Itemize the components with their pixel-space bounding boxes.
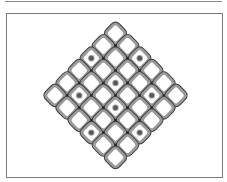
lattice-joint bbox=[102, 132, 104, 134]
lattice-joint bbox=[90, 94, 92, 96]
marked-dot-icon bbox=[112, 105, 118, 111]
lattice-tile bbox=[106, 148, 125, 167]
marked-dot-icon bbox=[88, 55, 94, 61]
marked-dot-icon bbox=[149, 92, 155, 98]
lattice-joint bbox=[78, 107, 80, 109]
marked-dot-icon bbox=[76, 92, 82, 98]
lattice-joint bbox=[114, 119, 116, 121]
lattice-joint bbox=[127, 82, 129, 84]
lattice-joint bbox=[114, 144, 116, 146]
lattice-joint bbox=[127, 57, 129, 59]
lattice-joint bbox=[78, 82, 80, 84]
lattice-joint bbox=[163, 94, 165, 96]
lattice-joint bbox=[139, 119, 141, 121]
lattice-joint bbox=[151, 107, 153, 109]
lattice-joint bbox=[127, 132, 129, 134]
lattice-joint bbox=[139, 94, 141, 96]
lattice-joint bbox=[90, 70, 92, 72]
lattice-joint bbox=[102, 57, 104, 59]
lattice-joint bbox=[66, 94, 68, 96]
lattice-joint bbox=[139, 70, 141, 72]
lattice-joint bbox=[102, 82, 104, 84]
diamond-lattice bbox=[0, 0, 227, 182]
lattice-joint bbox=[102, 107, 104, 109]
lattice-joint bbox=[114, 94, 116, 96]
lattice-joint bbox=[127, 107, 129, 109]
lattice-joint bbox=[90, 119, 92, 121]
marked-dot-icon bbox=[112, 80, 118, 86]
lattice-joint bbox=[151, 82, 153, 84]
marked-dot-icon bbox=[137, 55, 143, 61]
marked-dot-icon bbox=[88, 129, 94, 135]
lattice-joint bbox=[114, 70, 116, 72]
lattice-joint bbox=[114, 45, 116, 47]
marked-dot-icon bbox=[137, 129, 143, 135]
